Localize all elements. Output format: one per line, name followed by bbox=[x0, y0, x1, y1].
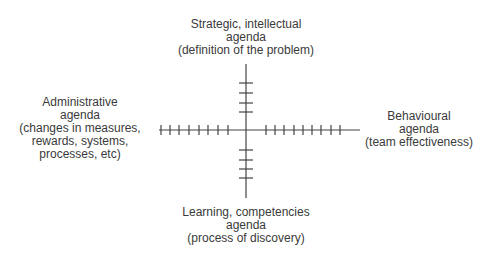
label-line: (team effectiveness) bbox=[360, 136, 478, 149]
label-line: processes, etc) bbox=[0, 148, 160, 161]
label-strategic-agenda: Strategic, intellectual agenda (definiti… bbox=[146, 18, 346, 57]
label-line: (process of discovery) bbox=[146, 232, 346, 245]
label-line: (definition of the problem) bbox=[146, 44, 346, 57]
label-behavioural-agenda: Behavioural agenda (team effectiveness) bbox=[360, 110, 478, 149]
label-learning-agenda: Learning, competencies agenda (process o… bbox=[146, 206, 346, 245]
label-administrative-agenda: Administrative agenda (changes in measur… bbox=[0, 96, 160, 161]
